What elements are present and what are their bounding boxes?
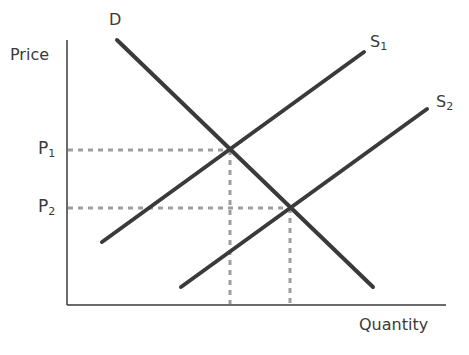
supply1-label-sub: 1: [380, 40, 387, 53]
supply-demand-diagram: [0, 0, 469, 355]
y-axis-label: Price: [10, 47, 49, 63]
price-label-p1-sub: 1: [48, 147, 55, 160]
price-label-p2: P2: [38, 198, 55, 217]
demand-curve: [117, 40, 373, 287]
x-axis-label: Quantity: [359, 317, 428, 333]
price-label-p1-base: P: [38, 138, 48, 158]
supply1-label: S1: [370, 34, 387, 52]
demand-label-base: D: [109, 10, 121, 29]
supply2-label-base: S: [436, 92, 446, 111]
supply2-label-sub: 2: [446, 100, 453, 113]
demand-label: D: [109, 12, 121, 28]
supply1-label-base: S: [370, 32, 380, 51]
price-label-p2-sub: 2: [48, 205, 55, 218]
supply2-label: S2: [436, 94, 453, 112]
supply-curve-1: [102, 52, 364, 242]
price-label-p1: P1: [38, 140, 55, 159]
price-label-p2-base: P: [38, 196, 48, 216]
